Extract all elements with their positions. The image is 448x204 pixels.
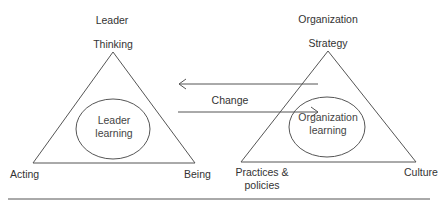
practices-line1: Practices &	[235, 166, 288, 179]
change-label: Change	[212, 94, 249, 106]
vertex-being: Being	[184, 168, 211, 180]
vertex-culture: Culture	[404, 166, 438, 178]
vertex-thinking: Thinking	[93, 38, 133, 50]
leader-triangle	[33, 52, 195, 163]
leader-learning-line1: Leader	[95, 114, 132, 127]
leader-learning-label: Leader learning	[95, 114, 132, 140]
leader-learning-line2: learning	[95, 127, 132, 140]
organization-learning-line2: learning	[298, 124, 358, 137]
vertex-practices-policies: Practices & policies	[235, 166, 288, 192]
vertex-strategy: Strategy	[308, 37, 347, 49]
practices-line2: policies	[235, 179, 288, 192]
organization-learning-line1: Organization	[298, 111, 358, 124]
leader-title: Leader	[96, 14, 129, 26]
organization-learning-label: Organization learning	[298, 111, 358, 137]
arrow-left-icon	[179, 79, 318, 89]
organization-title: Organization	[298, 13, 358, 25]
vertex-acting: Acting	[10, 168, 39, 180]
organization-triangle	[241, 51, 416, 162]
